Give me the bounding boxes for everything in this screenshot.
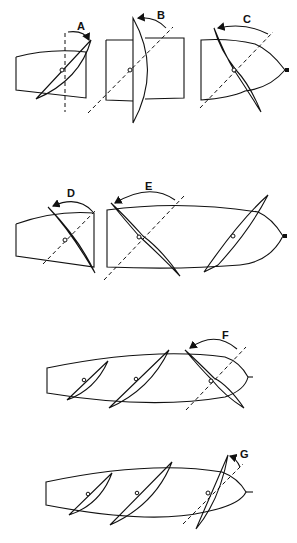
pivot-point-rear xyxy=(231,234,235,238)
label-b: B xyxy=(157,9,165,21)
pivot-point xyxy=(128,68,132,72)
rotation-arrow xyxy=(68,32,89,40)
panel-b: B xyxy=(88,9,184,123)
blade-front xyxy=(111,203,180,276)
rotation-arrow xyxy=(53,202,93,212)
diagram-canvas: A B C D E xyxy=(0,0,297,543)
blade-3 xyxy=(196,455,228,529)
label-a: A xyxy=(77,20,85,32)
nose-tip xyxy=(285,68,289,72)
blade-1 xyxy=(67,361,108,400)
label-g: G xyxy=(240,448,249,460)
rotation-arrow xyxy=(230,456,240,467)
blade-1 xyxy=(69,473,112,515)
rotation-arrow xyxy=(218,26,268,34)
rotation-arrow xyxy=(190,339,237,349)
pivot-point xyxy=(206,491,210,495)
pivot-point xyxy=(232,68,236,72)
pivot-point xyxy=(86,492,90,496)
label-e: E xyxy=(145,180,152,192)
pivot-point xyxy=(60,68,64,72)
pivot-point xyxy=(82,378,86,382)
pivot-point xyxy=(135,491,139,495)
pivot-point xyxy=(137,235,141,239)
rotation-arrow xyxy=(115,192,175,203)
pivot-point xyxy=(209,379,213,383)
pivot-point xyxy=(134,377,138,381)
label-d: D xyxy=(67,187,75,199)
panel-a: A xyxy=(16,20,91,112)
panel-c: C xyxy=(200,13,289,112)
blade xyxy=(133,18,148,123)
panel-g: G xyxy=(46,448,253,529)
panel-d: D xyxy=(16,187,96,273)
label-f: F xyxy=(222,329,229,341)
blade-2 xyxy=(110,462,172,525)
hull-outline xyxy=(201,40,285,101)
nose-tip xyxy=(283,234,287,238)
panel-e: E xyxy=(104,180,287,280)
hull-outline xyxy=(46,468,246,517)
hull-outline xyxy=(16,212,94,267)
blade-2 xyxy=(109,350,169,408)
rotation-axis xyxy=(43,210,96,264)
blade xyxy=(48,207,95,273)
pivot-point xyxy=(63,238,67,242)
panel-f: F xyxy=(47,329,253,410)
label-c: C xyxy=(243,13,251,25)
